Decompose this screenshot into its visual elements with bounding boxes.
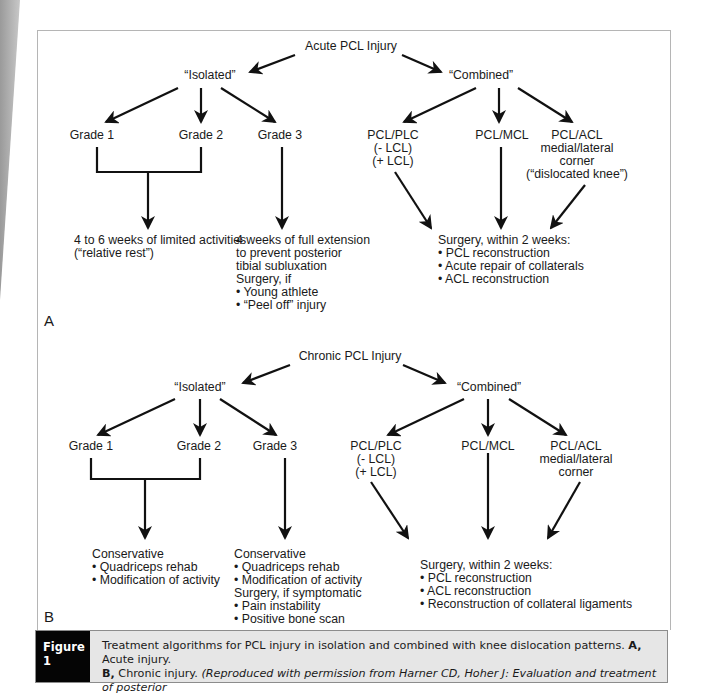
chronic-grade-1: Grade 1 xyxy=(69,440,113,453)
acute-grade3-outcome: 4 weeks of full extension to prevent pos… xyxy=(236,234,370,312)
acute-grade12-outcome: 4 to 6 weeks of limited activities (“rel… xyxy=(74,234,246,260)
acute-pcl-acl-node: PCL/ACL medial/lateral corner (“dislocat… xyxy=(526,129,628,181)
acute-isolated-node: “Isolated” xyxy=(184,69,235,82)
chronic-pcl-acl-node: PCL/ACL medial/lateral corner xyxy=(539,440,612,479)
acute-pcl-plc-node: PCL/PLC (- LCL) (+ LCL) xyxy=(367,129,418,168)
chronic-root-node: Chronic PCL Injury xyxy=(299,350,402,363)
panel-label-a: A xyxy=(44,312,54,329)
panel-label-b: B xyxy=(44,608,54,625)
chronic-grade3-outcome: Conservative • Quadriceps rehab • Modifi… xyxy=(234,548,362,626)
figure-number-tag: Figure 1 xyxy=(36,631,90,682)
chronic-isolated-node: “Isolated” xyxy=(174,381,225,394)
acute-combined-node: “Combined” xyxy=(449,69,513,82)
chronic-grade-3: Grade 3 xyxy=(253,440,297,453)
chronic-grade-2: Grade 2 xyxy=(177,440,221,453)
acute-root-node: Acute PCL Injury xyxy=(305,40,397,53)
chronic-grade12-outcome: Conservative • Quadriceps rehab • Modifi… xyxy=(92,548,220,587)
chronic-combined-outcome: Surgery, within 2 weeks: • PCL reconstru… xyxy=(420,559,632,611)
acute-grade-2: Grade 2 xyxy=(179,129,223,142)
acute-grade-3: Grade 3 xyxy=(258,129,302,142)
chronic-pcl-mcl-node: PCL/MCL xyxy=(461,440,514,453)
chronic-combined-node: “Combined” xyxy=(457,381,521,394)
acute-pcl-mcl-node: PCL/MCL xyxy=(475,129,528,142)
acute-grade-1: Grade 1 xyxy=(70,129,114,142)
acute-combined-outcome: Surgery, within 2 weeks: • PCL reconstru… xyxy=(438,234,584,286)
caption-text: Treatment algorithms for PCL injury in i… xyxy=(90,631,667,682)
figure-caption: Figure 1 Treatment algorithms for PCL in… xyxy=(35,630,668,683)
chronic-pcl-plc-node: PCL/PLC (- LCL) (+ LCL) xyxy=(350,440,401,479)
